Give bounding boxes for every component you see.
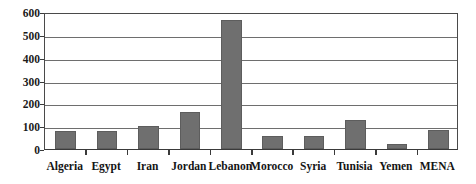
y-tick-label: 600 bbox=[0, 8, 40, 19]
bar bbox=[345, 120, 366, 149]
x-tick-mark bbox=[168, 150, 170, 155]
y-tick-mark bbox=[40, 13, 44, 14]
y-tick-label: 400 bbox=[0, 53, 40, 64]
bar-chart: 0100200300400500600 AlgeriaEgyptIranJord… bbox=[0, 0, 476, 184]
plot-area bbox=[44, 13, 458, 150]
y-axis: 0100200300400500600 bbox=[0, 0, 40, 184]
y-tick-mark bbox=[40, 59, 44, 60]
bar bbox=[55, 131, 76, 149]
y-tick-mark bbox=[40, 82, 44, 83]
y-tick-label: 0 bbox=[0, 145, 40, 156]
y-tick-label: 200 bbox=[0, 99, 40, 110]
x-tick-label: Syria bbox=[300, 160, 326, 173]
x-tick-mark bbox=[251, 150, 253, 155]
x-tick-mark bbox=[417, 150, 419, 155]
bars-group bbox=[45, 14, 457, 149]
bar bbox=[387, 144, 408, 149]
y-tick-label: 100 bbox=[0, 122, 40, 133]
bar bbox=[304, 136, 325, 149]
y-tick-label: 500 bbox=[0, 30, 40, 41]
x-tick-mark bbox=[334, 150, 336, 155]
x-tick-mark bbox=[292, 150, 294, 155]
x-tick-label: Lebanon bbox=[209, 160, 252, 173]
x-tick-label: MENA bbox=[420, 160, 455, 173]
x-tick-label: Yemen bbox=[379, 160, 412, 173]
bar bbox=[221, 20, 242, 149]
x-tick-mark bbox=[210, 150, 212, 155]
x-tick-label: Egypt bbox=[91, 160, 120, 173]
y-tick-mark bbox=[40, 104, 44, 105]
x-axis: AlgeriaEgyptIranJordanLebanonMoroccoSyri… bbox=[44, 160, 458, 180]
x-tick-label: Iran bbox=[137, 160, 159, 173]
bar bbox=[262, 136, 283, 149]
bar bbox=[138, 126, 159, 149]
x-tick-label: Jordan bbox=[171, 160, 206, 173]
y-tick-mark bbox=[40, 127, 44, 128]
bar bbox=[428, 130, 449, 149]
x-tick-mark bbox=[127, 150, 129, 155]
x-tick-label: Morocco bbox=[250, 160, 293, 173]
y-tick-mark bbox=[40, 150, 44, 151]
x-tick-label: Tunisia bbox=[336, 160, 372, 173]
bar bbox=[180, 112, 201, 149]
x-tick-mark bbox=[85, 150, 87, 155]
x-tick-label: Algeria bbox=[46, 160, 82, 173]
x-tick-mark bbox=[375, 150, 377, 155]
bar bbox=[97, 131, 118, 149]
y-tick-mark bbox=[40, 36, 44, 37]
y-tick-label: 300 bbox=[0, 76, 40, 87]
